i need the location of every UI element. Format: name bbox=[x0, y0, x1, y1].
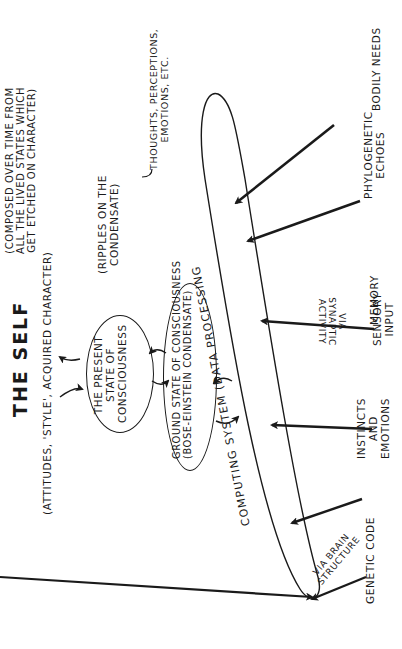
diagram-connectors bbox=[0, 0, 402, 649]
arrow-bodily-needs bbox=[236, 125, 334, 203]
arrow-ground-to-computing bbox=[216, 417, 238, 423]
arrow-ground-to-present bbox=[150, 350, 166, 353]
diagram-page: THE SELF (ATTITUDES, 'STYLE', ACQUIRED C… bbox=[0, 0, 402, 649]
arrow-present-to-self bbox=[60, 357, 80, 360]
arrow-phylogenetic bbox=[248, 201, 360, 241]
computing-system-band bbox=[201, 93, 319, 598]
arrow-computing-to-ground bbox=[214, 378, 232, 383]
arrow-present-to-ground bbox=[152, 381, 168, 384]
contents-bracket bbox=[142, 169, 152, 177]
arrow-self-to-present bbox=[60, 388, 82, 397]
arrow-memory bbox=[262, 321, 374, 329]
arrow-genetic-code bbox=[0, 577, 312, 597]
